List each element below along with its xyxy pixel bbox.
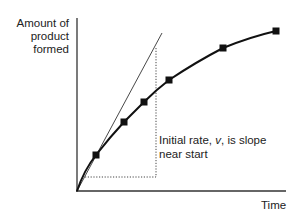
annotation-line-2: near start bbox=[159, 147, 266, 161]
annotation: Initial rate, v, is slope near start bbox=[159, 133, 266, 161]
marker-square-icon bbox=[166, 77, 173, 84]
product-curve bbox=[77, 31, 276, 191]
chart-canvas bbox=[0, 0, 298, 218]
annotation-line-1: Initial rate, v, is slope bbox=[159, 133, 266, 147]
tangent-line bbox=[77, 33, 162, 191]
marker-square-icon bbox=[121, 119, 128, 126]
x-axis-label: Time bbox=[261, 199, 286, 211]
marker-square-icon bbox=[93, 152, 100, 159]
marker-square-icon bbox=[220, 45, 227, 52]
marker-square-icon bbox=[141, 99, 148, 106]
marker-square-icon bbox=[273, 28, 280, 35]
